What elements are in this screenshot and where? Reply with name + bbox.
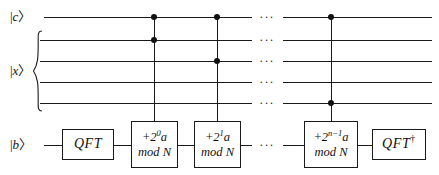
ellipsis-row-c: ··· — [259, 11, 275, 23]
gate-qft[interactable]: QFT — [62, 129, 114, 160]
wire-b-seg3 — [178, 145, 194, 146]
ket-angle: 〉 — [19, 137, 32, 152]
ellipsis-row-b: ··· — [259, 139, 275, 151]
wire-x2-left — [40, 61, 252, 62]
gate-add1-prefix: +2 — [205, 130, 220, 144]
ellipsis-row-x4: ··· — [259, 97, 275, 109]
gate-qft-label: QFT — [74, 136, 102, 153]
wire-b-seg4 — [241, 145, 252, 146]
gate-addn-line2: mod N — [315, 145, 348, 160]
gate-add0-line1: +20a — [142, 130, 167, 145]
gate-add0-suffix: a — [161, 130, 167, 144]
ket-label-b: |b〉 — [10, 138, 32, 151]
dagger-icon: † — [410, 134, 416, 145]
gate-add-2-n-1-a-mod-n[interactable]: +2n−1a mod N — [304, 121, 358, 168]
wire-b-seg6 — [358, 145, 372, 146]
ket-angle: 〉 — [18, 63, 31, 78]
wire-b-seg1 — [44, 145, 62, 146]
ellipsis-row-x1: ··· — [259, 34, 275, 46]
gate-addn-suffix: a — [342, 130, 348, 144]
control-line-add0 — [154, 17, 155, 121]
gate-qft-dagger-label: QFT† — [382, 136, 416, 153]
wire-x1-right — [283, 40, 432, 41]
gate-add1-line2: mod N — [201, 145, 234, 160]
control-dot-addn-c — [328, 14, 334, 20]
control-dot-add0-c — [151, 14, 157, 20]
gate-qft-dagger-text: QFT — [382, 136, 410, 151]
wire-x3-right — [283, 82, 432, 83]
x-register-brace — [32, 30, 43, 112]
wire-b-seg5 — [283, 145, 304, 146]
wire-x3-left — [40, 82, 252, 83]
wire-b-seg2 — [114, 145, 131, 146]
gate-add1-suffix: a — [224, 130, 230, 144]
wire-x4-left — [40, 103, 252, 104]
control-dot-add1-c — [214, 14, 220, 20]
control-dot-add0-x1 — [151, 37, 157, 43]
control-dot-addn-x4 — [328, 100, 334, 106]
gate-qft-dagger[interactable]: QFT† — [372, 129, 426, 160]
wire-x2-right — [283, 61, 432, 62]
control-line-add1 — [217, 17, 218, 121]
control-dot-add1-x2 — [214, 58, 220, 64]
ellipsis-row-x2: ··· — [259, 55, 275, 67]
gate-add1-line1: +21a — [205, 130, 230, 145]
gate-addn-prefix: +2 — [313, 130, 328, 144]
gate-add0-prefix: +2 — [142, 130, 157, 144]
wire-c-left — [44, 17, 252, 18]
gate-add0-line2: mod N — [138, 145, 171, 160]
gate-add-2-1-a-mod-n[interactable]: +21a mod N — [194, 121, 241, 168]
ket-label-x: |x〉 — [10, 64, 31, 77]
gate-add-2-0-a-mod-n[interactable]: +20a mod N — [131, 121, 178, 168]
gate-addn-exponent: n−1 — [328, 128, 342, 138]
wire-x1-left — [40, 40, 252, 41]
ket-label-c: |c〉 — [10, 10, 31, 23]
quantum-circuit-diagram: |c〉 |x〉 |b〉 ··· ··· ··· ··· ··· ··· QFT — [0, 0, 439, 175]
ket-angle: 〉 — [18, 9, 31, 24]
ellipsis-row-x3: ··· — [259, 76, 275, 88]
gate-addn-line1: +2n−1a — [313, 130, 348, 145]
wire-c-right — [283, 17, 432, 18]
wire-x4-right — [283, 103, 432, 104]
